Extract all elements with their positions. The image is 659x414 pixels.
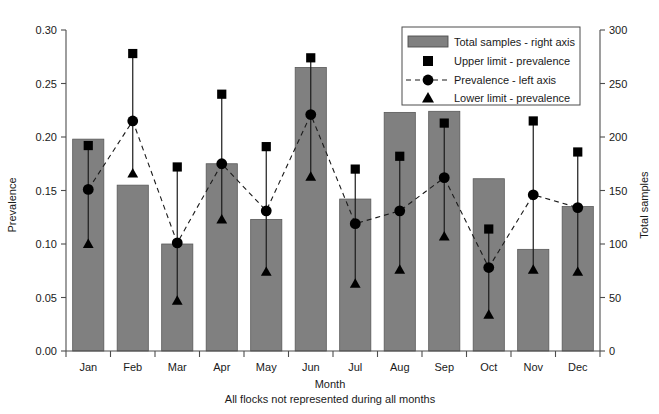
- upper-limit-marker-jul: [351, 165, 360, 174]
- legend-label-total-samples: Total samples - right axis: [454, 36, 576, 48]
- left-axis-tick-label: 0.05: [36, 292, 57, 304]
- prevalence-marker-oct: [483, 262, 494, 273]
- upper-limit-marker-may: [262, 142, 271, 151]
- x-axis-label-aug: Aug: [390, 361, 410, 373]
- x-axis-label-apr: Apr: [213, 361, 230, 373]
- legend-label-upper-limit: Upper limit - prevalence: [454, 55, 570, 67]
- right-axis-tick-label: 0: [609, 345, 615, 357]
- prevalence-marker-may: [261, 205, 272, 216]
- prevalence-marker-feb: [127, 116, 138, 127]
- prevalence-marker-jan: [83, 184, 94, 195]
- upper-limit-marker-jan: [84, 141, 93, 150]
- x-axis-title: Month: [315, 378, 346, 390]
- prevalence-marker-apr: [216, 158, 227, 169]
- legend-label-prevalence: Prevalence - left axis: [454, 74, 557, 86]
- bar-feb: [117, 185, 148, 351]
- upper-limit-marker-aug: [395, 152, 404, 161]
- x-axis-label-feb: Feb: [123, 361, 142, 373]
- right-axis-tick-label: 300: [609, 24, 627, 36]
- right-axis-tick-label: 150: [609, 185, 627, 197]
- chart-canvas: 0.000.050.100.150.200.250.30 05010015020…: [0, 0, 659, 414]
- upper-limit-marker-dec: [573, 147, 582, 156]
- right-axis-tick-label: 50: [609, 292, 621, 304]
- left-axis-tick-label: 0.30: [36, 24, 57, 36]
- legend-swatch-total-samples: [408, 36, 448, 47]
- prevalence-marker-jun: [305, 109, 316, 120]
- x-axis-label-dec: Dec: [568, 361, 588, 373]
- x-axis-label-mar: Mar: [168, 361, 187, 373]
- upper-limit-marker-sep: [440, 118, 449, 127]
- prevalence-marker-dec: [572, 202, 583, 213]
- prevalence-marker-aug: [394, 205, 405, 216]
- prevalence-marker-sep: [439, 172, 450, 183]
- chart-caption: All flocks not represented during all mo…: [225, 393, 436, 405]
- prevalence-total-samples-chart: 0.000.050.100.150.200.250.30 05010015020…: [0, 0, 659, 414]
- right-axis-tick-label: 250: [609, 78, 627, 90]
- chart-legend: Total samples - right axisUpper limit - …: [402, 27, 580, 105]
- x-axis-label-sep: Sep: [434, 361, 454, 373]
- prevalence-marker-mar: [172, 238, 183, 249]
- left-axis-tick-label: 0.00: [36, 345, 57, 357]
- x-axis-label-jul: Jul: [348, 361, 362, 373]
- left-axis-tick-label: 0.20: [36, 131, 57, 143]
- right-axis-tick-label: 200: [609, 131, 627, 143]
- legend-label-lower-limit: Lower limit - prevalence: [454, 92, 570, 104]
- x-axis-label-may: May: [256, 361, 277, 373]
- upper-limit-marker-apr: [217, 90, 226, 99]
- upper-limit-marker-jun: [306, 53, 315, 62]
- x-axis-label-jun: Jun: [302, 361, 320, 373]
- left-axis-tick-label: 0.15: [36, 185, 57, 197]
- right-axis-tick-label: 100: [609, 238, 627, 250]
- y-axis-left-title: Prevalence: [6, 177, 18, 232]
- legend-circle-icon: [423, 75, 434, 86]
- upper-limit-marker-oct: [484, 224, 493, 233]
- x-axis-label-jan: Jan: [79, 361, 97, 373]
- x-axis-label-oct: Oct: [480, 361, 497, 373]
- legend-square-icon: [423, 56, 433, 66]
- upper-limit-marker-mar: [173, 162, 182, 171]
- y-axis-right-title: Total samples: [638, 171, 650, 239]
- prevalence-marker-nov: [528, 189, 539, 200]
- upper-limit-marker-nov: [529, 116, 538, 125]
- upper-limit-marker-feb: [128, 49, 137, 58]
- prevalence-marker-jul: [350, 218, 361, 229]
- x-axis-label-nov: Nov: [523, 361, 543, 373]
- left-axis-tick-label: 0.25: [36, 78, 57, 90]
- left-axis-tick-label: 0.10: [36, 238, 57, 250]
